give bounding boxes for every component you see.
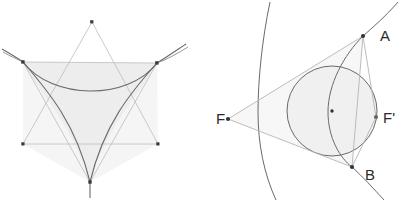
figure-container: A F F' B bbox=[0, 0, 404, 203]
hyperbola-incircle-panel: A F F' B bbox=[202, 0, 404, 203]
label-F-prime: F' bbox=[383, 109, 395, 126]
label-F: F bbox=[216, 110, 225, 127]
vertex-dot-lower-right bbox=[156, 142, 159, 145]
label-B: B bbox=[365, 166, 375, 183]
point-dot-F bbox=[226, 117, 230, 121]
point-dot-circle-center bbox=[330, 109, 333, 112]
vertex-dot-upper-left bbox=[21, 60, 24, 63]
deltoid-hexagram-panel bbox=[0, 0, 202, 203]
tangent-extension-upper-right bbox=[157, 44, 186, 63]
point-dot-F-prime bbox=[374, 115, 378, 119]
label-A: A bbox=[380, 27, 390, 44]
point-dot-A bbox=[361, 34, 365, 38]
tangent-extension-upper-left-2 bbox=[3, 52, 23, 62]
vertex-dot-lower-left bbox=[21, 142, 24, 145]
vertex-dot-upper-right bbox=[155, 61, 158, 64]
vertex-dot-top-apex bbox=[90, 20, 93, 23]
vertex-dot-bottom-apex bbox=[88, 180, 91, 183]
point-dot-B bbox=[350, 165, 354, 169]
